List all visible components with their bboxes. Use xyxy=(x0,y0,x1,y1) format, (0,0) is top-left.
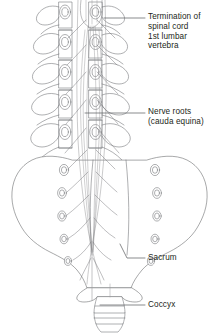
label-termination-of-spinal-cord: Termination of spinal cord 1st lumbar ve… xyxy=(148,12,201,51)
anatomical-figure: Termination of spinal cord 1st lumbar ve… xyxy=(0,0,219,334)
lumbar-vertebra-level-5 xyxy=(31,120,131,160)
lumbar-vertebra-level-2 xyxy=(33,30,127,64)
sacrum xyxy=(12,156,207,288)
label-nerve-roots-cauda-equina: Nerve roots (cauda equina) xyxy=(148,107,204,127)
label-sacrum: Sacrum xyxy=(148,253,177,263)
lumbar-vertebra-level-3 xyxy=(32,60,128,94)
coccyx xyxy=(77,288,142,332)
label-coccyx: Coccyx xyxy=(148,300,175,310)
